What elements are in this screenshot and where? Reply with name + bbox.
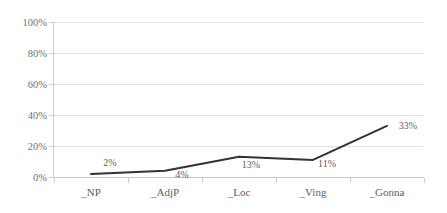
- data-label-gonna: 33%: [399, 121, 417, 131]
- series-line-svg: [0, 0, 447, 213]
- data-label-loc: 13%: [242, 160, 260, 170]
- line-chart: 100% 80% 60% 40% 20% 0% _NP _AdjP _Loc _…: [0, 0, 447, 213]
- data-label-adjp: 4%: [175, 170, 188, 180]
- series-line: [91, 126, 387, 174]
- data-label-np: 2%: [103, 158, 116, 168]
- data-label-ving: 11%: [318, 159, 336, 169]
